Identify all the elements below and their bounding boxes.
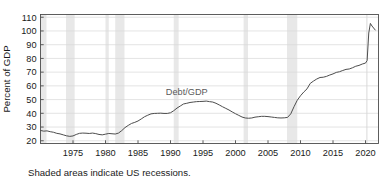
x-tick-label: 2020	[355, 148, 375, 158]
plot-frame	[41, 15, 379, 144]
recession-band	[115, 15, 124, 144]
y-tick-label: 70	[26, 67, 36, 77]
recession-band	[244, 15, 248, 144]
debt-to-gdp-line-chart: 2030405060708090100110 19751980198519901…	[0, 0, 386, 183]
x-tick-label: 2005	[258, 148, 278, 158]
y-axis-tick-labels: 2030405060708090100110	[21, 13, 36, 147]
y-tick-label: 110	[22, 13, 37, 23]
recession-band	[41, 15, 47, 144]
y-axis-title: Percent of GDP	[1, 45, 12, 112]
y-tick-label: 40	[26, 109, 36, 119]
y-tick-label: 80	[26, 54, 36, 64]
recession-band	[106, 15, 109, 144]
x-tick-label: 2015	[323, 148, 343, 158]
x-tick-label: 2010	[290, 148, 310, 158]
y-tick-label: 60	[26, 81, 36, 91]
recession-band	[174, 15, 179, 144]
x-axis-tick-labels: 1975198019851990199520002005201020152020	[63, 148, 376, 158]
recession-band	[66, 15, 75, 144]
recession-bands	[41, 15, 368, 144]
data-series-line	[41, 23, 376, 136]
x-tick-label: 1985	[128, 148, 148, 158]
x-tick-label: 1975	[63, 148, 83, 158]
y-gridlines	[41, 17, 379, 141]
chart-figure: 2030405060708090100110 19751980198519901…	[0, 0, 386, 183]
chart-caption: Shaded areas indicate US recessions.	[28, 167, 191, 178]
x-tick-label: 1980	[95, 148, 115, 158]
x-tick-label: 1990	[160, 148, 180, 158]
y-tick-label: 30	[26, 122, 36, 132]
series-path-debt-gdp	[41, 23, 376, 136]
recession-band	[366, 15, 368, 144]
x-tick-label: 2000	[225, 148, 245, 158]
x-tick-label: 1995	[193, 148, 213, 158]
series-annotation-debt-gdp: Debt/GDP	[166, 87, 208, 97]
y-tick-label: 20	[26, 136, 36, 146]
recession-band	[287, 15, 297, 144]
y-tick-label: 50	[26, 95, 36, 105]
y-tick-label: 100	[21, 26, 36, 36]
y-tick-label: 90	[26, 40, 36, 50]
axes-border	[41, 15, 379, 144]
